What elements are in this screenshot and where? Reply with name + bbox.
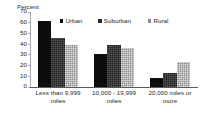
bar-suburban[interactable]: [163, 73, 177, 87]
y-axis-tick-label: 70: [20, 8, 27, 14]
bar-group: [86, 12, 142, 87]
y-axis-tick-label: 50: [20, 30, 27, 36]
x-axis-tick-label: 10,000 - 19,999miles: [86, 89, 142, 123]
x-axis-tick-label: Less than 9,999miles: [30, 89, 86, 123]
x-axis-tick-labels: Less than 9,999miles10,000 - 19,999miles…: [30, 89, 198, 123]
x-axis-tick-label-line: Less than 9,999: [31, 89, 85, 97]
bar-group: [30, 12, 86, 87]
bar-suburban[interactable]: [51, 38, 65, 86]
x-axis-tick-label-line: miles: [31, 97, 85, 105]
bar-urban[interactable]: [94, 54, 108, 86]
bar-rural[interactable]: [65, 45, 79, 87]
bar-rural[interactable]: [177, 62, 191, 87]
y-axis-tick-label: 60: [20, 19, 27, 25]
x-axis-line: [30, 87, 198, 88]
y-axis-tick-labels: 706050403020100: [0, 0, 30, 124]
bar-rural[interactable]: [121, 48, 135, 87]
y-axis-tick-label: 40: [20, 41, 27, 47]
x-axis-tick-label-line: 20,000 miles or: [143, 89, 197, 97]
bar-groups: [30, 12, 198, 87]
y-axis-tick-label: 30: [20, 51, 27, 57]
bar-group: [142, 12, 198, 87]
x-axis-tick-label-line: 10,000 - 19,999: [87, 89, 141, 97]
y-axis-tick-label: 10: [20, 73, 27, 79]
y-axis-tick-label: 0: [24, 83, 27, 89]
y-axis-tick-label: 20: [20, 62, 27, 68]
x-axis-tick-label-line: miles: [87, 97, 141, 105]
bar-urban[interactable]: [38, 21, 52, 86]
bar-urban[interactable]: [150, 78, 164, 87]
bar-chart: Percent 706050403020100 UrbanSuburbanRur…: [0, 0, 201, 124]
x-axis-tick-label-line: more: [143, 97, 197, 105]
bar-suburban[interactable]: [107, 45, 121, 87]
x-axis-tick-label: 20,000 miles ormore: [142, 89, 198, 123]
